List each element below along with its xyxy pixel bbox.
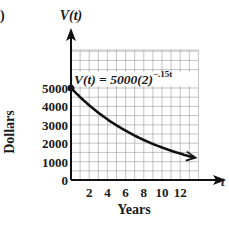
chart: 24681012010002000300040005000 ) V(t) t Y… [0,0,229,229]
x-tick-label: 4 [104,185,111,200]
y-tick-label: 3000 [42,118,68,133]
x-tick-label: 2 [86,185,93,200]
x-tick-label: 6 [122,185,129,200]
grid [71,50,198,180]
y-axis-label: Dollars [2,110,17,154]
x-tick-label: 12 [174,185,187,200]
y-tick-label: 0 [62,173,69,188]
y-tick-label: 1000 [42,155,68,170]
x-tick-label: 10 [156,185,169,200]
y-tick-label: 2000 [42,136,68,151]
panel-marker: ) [0,8,5,24]
tick-labels: 24681012010002000300040005000 [42,81,187,200]
data-curve [68,85,196,161]
x-tick-label: 8 [141,185,148,200]
x-axis-label: Years [117,202,151,217]
x-axis-variable: t [221,174,225,189]
y-tick-label: 5000 [42,81,68,96]
y-axis-variable: V(t) [60,8,83,24]
y-tick-label: 4000 [42,99,68,114]
